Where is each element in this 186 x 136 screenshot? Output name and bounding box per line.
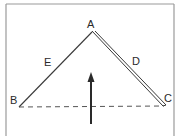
side-label-d: D	[132, 55, 140, 67]
vertex-label-c: C	[164, 92, 172, 104]
side-ab-e	[19, 32, 92, 107]
vertex-label-b: B	[10, 94, 17, 106]
side-ac-d	[92, 31, 166, 106]
side-label-e: E	[44, 56, 51, 68]
triangle-diagram: A B C D E	[0, 0, 186, 136]
up-arrow-icon	[88, 72, 95, 124]
vertex-label-a: A	[87, 18, 95, 30]
